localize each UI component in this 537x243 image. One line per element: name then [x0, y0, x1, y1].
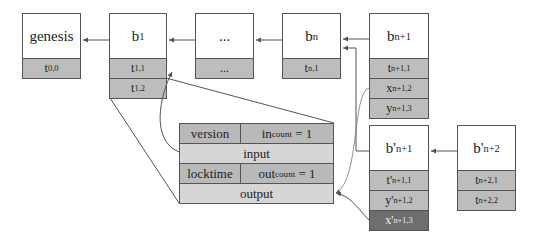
fork-arrow-icon — [343, 48, 369, 151]
reference-arrow-icon — [336, 88, 369, 193]
connectors — [0, 0, 537, 243]
reference-arrow-icon — [160, 72, 179, 152]
reference-arrow-icon — [336, 193, 369, 220]
